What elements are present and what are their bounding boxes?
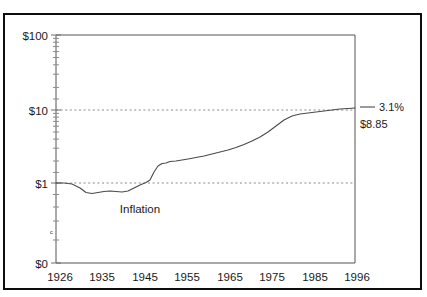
xtick-label-1935: 1935 [89, 271, 115, 283]
ytick-label-10: $10 [29, 105, 48, 117]
xtick-label-1945: 1945 [132, 271, 158, 283]
xtick-label-1926: 1926 [47, 271, 73, 283]
xtick-label-1955: 1955 [174, 271, 200, 283]
ending-value-label: $8.85 [360, 118, 388, 130]
cents-marker: c [50, 229, 53, 235]
ytick-label-100: $100 [22, 30, 48, 42]
inflation-series-inline-label: Inflation [120, 203, 160, 215]
ytick-label-1: $1 [35, 178, 48, 190]
chart-figure: c $100 $10 $1 $0 1926 1935 1945 1955 196… [0, 0, 427, 297]
xtick-label-1965: 1965 [217, 271, 243, 283]
inflation-growth-chart: c $100 $10 $1 $0 1926 1935 1945 1955 196… [0, 0, 427, 297]
annual-return-label: 3.1% [379, 101, 404, 113]
xtick-label-1975: 1975 [259, 271, 285, 283]
inflation-data-line [56, 108, 355, 194]
xtick-label-1996: 1996 [344, 271, 370, 283]
ytick-label-0: $0 [35, 258, 48, 270]
xtick-label-1985: 1985 [302, 271, 328, 283]
